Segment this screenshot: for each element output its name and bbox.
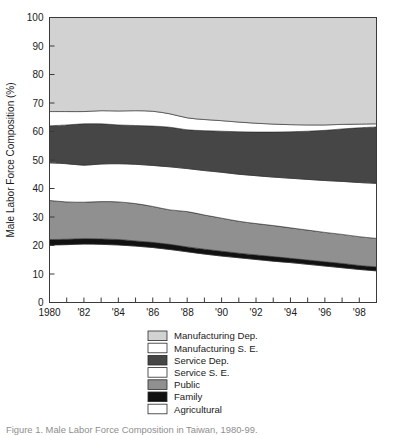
y-tick-label: 100 <box>27 12 44 23</box>
y-tick-label: 50 <box>32 155 44 166</box>
y-tick-label: 20 <box>32 240 44 251</box>
x-tick-label: '96 <box>318 307 331 318</box>
legend-label-public: Public <box>174 379 200 390</box>
y-tick-label: 30 <box>32 212 44 223</box>
x-tick-label: '88 <box>181 307 194 318</box>
legend-label-family: Family <box>174 391 202 402</box>
legend-label-manufacturing-s-e: Manufacturing S. E. <box>174 343 258 354</box>
y-tick-label: 60 <box>32 126 44 137</box>
legend-swatch-manufacturing-dep <box>148 331 167 341</box>
legend-label-service-dep: Service Dep. <box>174 355 229 366</box>
x-tick-label: '98 <box>353 307 366 318</box>
x-tick-label: '84 <box>112 307 125 318</box>
legend-swatch-agricultural <box>148 404 167 414</box>
x-tick-label: 1980 <box>38 307 61 318</box>
legend-swatch-service-s-e <box>148 368 167 378</box>
y-tick-label: 80 <box>32 69 44 80</box>
x-tick-label: '82 <box>77 307 90 318</box>
area-series-manufacturing-dep <box>50 18 377 125</box>
area-series-group <box>50 18 377 303</box>
figure-caption: Figure 1. Male Labor Force Composition i… <box>6 424 390 435</box>
legend-label-service-s-e: Service S. E. <box>174 367 229 378</box>
legend-label-agricultural: Agricultural <box>174 404 222 415</box>
x-tick-label: '86 <box>146 307 159 318</box>
x-tick-label: '92 <box>250 307 263 318</box>
legend-swatch-family <box>148 392 167 402</box>
y-tick-label: 10 <box>32 269 44 280</box>
x-tick-label: '94 <box>284 307 297 318</box>
legend-label-manufacturing-dep: Manufacturing Dep. <box>174 330 258 341</box>
y-axis-label: Male Labor Force Composition (%) <box>5 82 16 237</box>
legend-swatch-manufacturing-s-e <box>148 343 167 353</box>
x-tick-label: '90 <box>215 307 228 318</box>
legend-swatch-service-dep <box>148 355 167 365</box>
y-tick-label: 70 <box>32 98 44 109</box>
legend-swatch-public <box>148 380 167 390</box>
y-tick-label: 90 <box>32 41 44 52</box>
y-tick-label: 40 <box>32 183 44 194</box>
y-axis-label-group: Male Labor Force Composition (%) <box>5 82 16 237</box>
